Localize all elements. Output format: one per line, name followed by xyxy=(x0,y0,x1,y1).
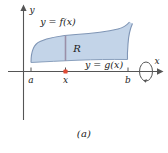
figure-container: y = f(x) y = g(x) R a x b x y (a) xyxy=(0,0,168,153)
label-axis-x: x xyxy=(154,56,159,66)
label-tick-x: x xyxy=(63,75,68,85)
label-curve-g: y = g(x) xyxy=(84,59,124,70)
figure-caption: (a) xyxy=(0,128,168,139)
region-shaded-area xyxy=(31,22,133,63)
x-point-marker xyxy=(63,69,67,73)
label-axis-y: y xyxy=(28,5,35,15)
arrow-up-icon xyxy=(20,5,26,12)
label-tick-a: a xyxy=(28,75,33,85)
arrow-right-icon xyxy=(157,68,164,75)
label-tick-b: b xyxy=(125,75,131,85)
label-curve-f: y = f(x) xyxy=(39,16,76,27)
label-region-r: R xyxy=(72,43,81,54)
